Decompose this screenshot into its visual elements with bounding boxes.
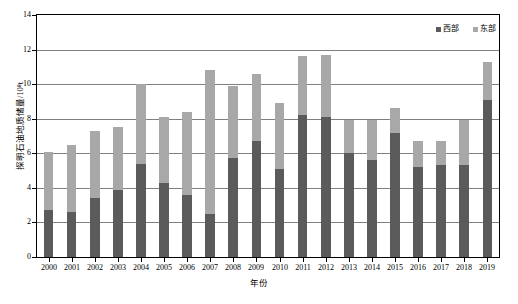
y-axis-tick-label: 4 [0, 184, 31, 192]
bar-segment-east [44, 152, 54, 211]
bar-segment-west [67, 212, 77, 257]
bar-slot [314, 15, 337, 257]
bar-segment-east [390, 108, 400, 132]
x-axis-tick-mark [280, 258, 281, 262]
legend-item-east: 东部 [473, 25, 496, 33]
stacked-bar [205, 15, 215, 257]
y-axis-tick-label: 12 [0, 46, 31, 54]
bar-slot [60, 15, 83, 257]
bar-segment-east [252, 74, 262, 141]
bar-slot [106, 15, 129, 257]
stacked-bar [275, 15, 285, 257]
y-axis-tick-mark [32, 50, 36, 51]
bar-segment-east [321, 55, 331, 117]
x-axis-tick-mark [349, 258, 350, 262]
stacked-bar [67, 15, 77, 257]
stacked-bar [113, 15, 123, 257]
x-axis-tick-mark [72, 258, 73, 262]
bar-slot [476, 15, 499, 257]
bar-segment-west [113, 190, 123, 257]
bar-segment-east [182, 112, 192, 195]
bar-segment-east [90, 131, 100, 198]
bar-slot [384, 15, 407, 257]
x-axis-tick-mark [372, 258, 373, 262]
x-axis-tick-mark [326, 258, 327, 262]
bar-segment-east [159, 117, 169, 183]
bar-segment-east [298, 56, 308, 115]
x-axis-tick-mark [395, 258, 396, 262]
bar-segment-east [459, 120, 469, 165]
bar-slot [407, 15, 430, 257]
stacked-bar [44, 15, 54, 257]
legend-swatch-east-icon [473, 27, 478, 32]
stacked-bar [252, 15, 262, 257]
y-axis-tick-mark [32, 84, 36, 85]
bar-segment-west [182, 195, 192, 257]
y-axis-tick-label: 8 [0, 115, 31, 123]
bar-segment-west [436, 165, 446, 257]
legend-label-west: 西部 [443, 25, 459, 33]
bar-slot [176, 15, 199, 257]
x-axis-tick-mark [141, 258, 142, 262]
bar-segment-west [344, 153, 354, 257]
y-axis-tick-label: 2 [0, 218, 31, 226]
bar-slot [453, 15, 476, 257]
y-axis-tick-mark [32, 15, 36, 16]
x-axis-tick-mark [256, 258, 257, 262]
bar-slot [245, 15, 268, 257]
stacked-bar [344, 15, 354, 257]
bar-segment-west [367, 160, 377, 257]
bar-segment-west [390, 133, 400, 257]
bar-segment-east [67, 145, 77, 212]
bar-segment-east [413, 141, 423, 167]
bar-slot [337, 15, 360, 257]
bar-slot [83, 15, 106, 257]
stacked-bar [228, 15, 238, 257]
legend-item-west: 西部 [436, 25, 459, 33]
bar-segment-west [44, 210, 54, 257]
bar-segment-east [205, 70, 215, 213]
stacked-bar [483, 15, 493, 257]
x-axis-tick-mark [49, 258, 50, 262]
stacked-bar [390, 15, 400, 257]
bar-segment-east [436, 141, 446, 165]
chart-figure: 探明石油地质储量/10⁸t 02468101214 20002001200220… [0, 0, 518, 304]
stacked-bar [367, 15, 377, 257]
x-axis-tick-mark [418, 258, 419, 262]
bar-segment-west [459, 165, 469, 257]
stacked-bar [159, 15, 169, 257]
x-axis-tick-mark [164, 258, 165, 262]
y-axis-tick-label: 6 [0, 149, 31, 157]
y-axis-tick-mark [32, 119, 36, 120]
y-axis-tick-mark [32, 153, 36, 154]
bar-slot [360, 15, 383, 257]
bar-segment-east [483, 62, 493, 100]
bar-slot [268, 15, 291, 257]
bar-segment-west [90, 198, 100, 257]
stacked-bar [182, 15, 192, 257]
bar-segment-west [136, 164, 146, 257]
bar-segment-west [413, 167, 423, 257]
x-axis-tick-mark [233, 258, 234, 262]
x-axis-tick-mark [210, 258, 211, 262]
chart-legend: 西部 东部 [436, 25, 496, 33]
bar-segment-east [344, 120, 354, 153]
bar-segment-east [113, 127, 123, 189]
bar-series-container [37, 15, 499, 257]
stacked-bar [136, 15, 146, 257]
bar-slot [430, 15, 453, 257]
bar-segment-west [159, 183, 169, 257]
stacked-bar [459, 15, 469, 257]
x-axis-tick-mark [187, 258, 188, 262]
bar-segment-east [367, 120, 377, 160]
y-axis-tick-mark [32, 257, 36, 258]
x-axis-tick-label: 2019 [470, 263, 504, 273]
bar-segment-east [275, 103, 285, 169]
legend-swatch-west-icon [436, 27, 441, 32]
y-axis-tick-label: 10 [0, 80, 31, 88]
bar-segment-west [205, 214, 215, 257]
bar-segment-west [321, 117, 331, 257]
bar-segment-east [228, 86, 238, 159]
legend-label-east: 东部 [480, 25, 496, 33]
y-axis-tick-label: 0 [0, 253, 31, 261]
